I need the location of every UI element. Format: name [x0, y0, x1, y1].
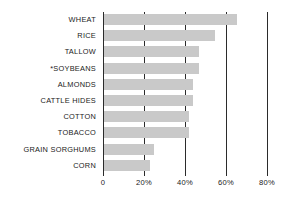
bar	[104, 63, 199, 74]
bar	[104, 111, 189, 122]
category-label: CATTLE HIDES	[41, 95, 96, 106]
bar	[104, 30, 215, 41]
x-tick-label: 0	[101, 178, 105, 187]
x-tick-label: 80%	[259, 178, 275, 187]
x-axis-tick-labels: 020%40%60%80%	[103, 178, 293, 192]
bar	[104, 160, 150, 171]
category-label: RICE	[77, 30, 96, 41]
category-label: ALMONDS	[58, 79, 96, 90]
category-label: GRAIN SORGHUMS	[24, 144, 96, 155]
bar	[104, 95, 193, 106]
bar-chart: WHEATRICETALLOW*SOYBEANSALMONDSCATTLE HI…	[0, 0, 297, 197]
plot-area	[103, 12, 273, 176]
category-label: TALLOW	[65, 46, 96, 57]
category-axis-labels: WHEATRICETALLOW*SOYBEANSALMONDSCATTLE HI…	[0, 13, 99, 175]
bar	[104, 127, 189, 138]
bar	[104, 79, 193, 90]
x-tick-label: 40%	[177, 178, 193, 187]
gridline-60%	[226, 12, 227, 176]
gridline-80%	[267, 12, 268, 176]
category-label: TOBACCO	[58, 127, 96, 138]
category-label: *SOYBEANS	[50, 63, 96, 74]
category-label: WHEAT	[69, 14, 96, 25]
category-label: COTTON	[63, 111, 96, 122]
bar	[104, 144, 154, 155]
x-tick-label: 20%	[136, 178, 152, 187]
x-tick-label: 60%	[218, 178, 234, 187]
bar	[104, 46, 199, 57]
category-label: CORN	[73, 160, 96, 171]
bar	[104, 14, 237, 25]
